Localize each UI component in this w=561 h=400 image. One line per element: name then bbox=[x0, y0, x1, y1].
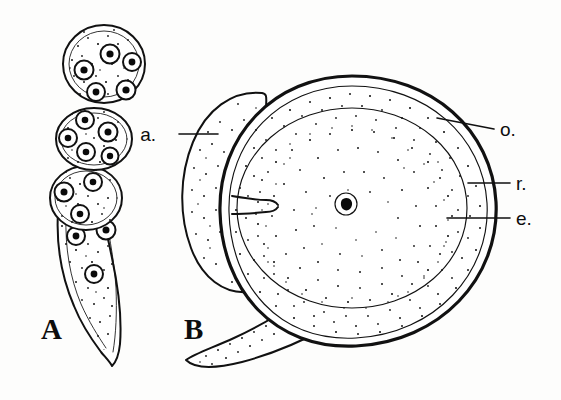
nucleus bbox=[117, 81, 136, 100]
label-a: a. bbox=[140, 124, 156, 145]
panel-letter-a: A bbox=[41, 313, 62, 345]
nucleus bbox=[77, 143, 95, 161]
figure-plate: a. o. r. e. A B bbox=[0, 0, 561, 400]
nucleus bbox=[87, 83, 105, 101]
label-o: o. bbox=[500, 119, 516, 140]
nucleolus bbox=[341, 198, 352, 210]
illustration-canvas: a. o. r. e. A B bbox=[0, 0, 561, 400]
label-r: r. bbox=[516, 173, 527, 194]
panel-letters: A B bbox=[41, 313, 203, 345]
nucleus bbox=[102, 148, 119, 165]
panel-a-cell-1 bbox=[63, 25, 145, 103]
panel-letter-b: B bbox=[184, 313, 203, 345]
label-e: e. bbox=[516, 208, 532, 229]
nucleus bbox=[55, 183, 74, 202]
egg-nucleus bbox=[335, 193, 357, 215]
panel-a-cell-4 bbox=[50, 166, 122, 230]
nucleus bbox=[76, 111, 94, 129]
nucleus bbox=[123, 53, 141, 71]
nucleus bbox=[84, 173, 102, 191]
nucleus bbox=[101, 45, 120, 64]
nucleus bbox=[85, 265, 103, 283]
outer-membrane-outline bbox=[220, 76, 496, 346]
nucleus bbox=[75, 61, 94, 80]
nucleus bbox=[99, 123, 118, 142]
panel-a-cell-3 bbox=[56, 108, 132, 170]
panel-a bbox=[50, 25, 145, 366]
panel-b-outer-membrane bbox=[220, 76, 496, 346]
nucleus bbox=[71, 205, 89, 223]
nucleus bbox=[59, 129, 77, 147]
